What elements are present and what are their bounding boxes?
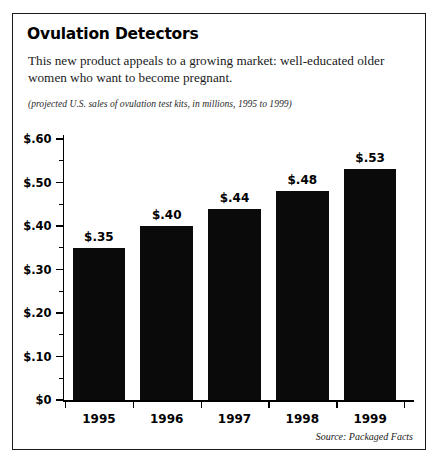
y-axis-label: $0 (13, 393, 52, 407)
y-axis-minor-tick (59, 378, 63, 379)
y-axis-tick (56, 182, 63, 183)
y-axis-minor-tick (59, 334, 63, 335)
source-attribution: Source: Packaged Facts (316, 431, 413, 442)
x-axis-tick (268, 401, 269, 408)
x-axis-label: 1997 (201, 412, 269, 426)
bar-value-label: $.53 (336, 151, 404, 165)
x-axis-label: 1998 (268, 412, 336, 426)
bar (344, 169, 397, 400)
y-axis-label: $.60 (13, 132, 52, 146)
y-axis-line (63, 135, 65, 402)
y-axis-minor-tick (59, 204, 63, 205)
x-axis-line (63, 400, 415, 402)
bar (208, 209, 261, 400)
y-axis-label: $.20 (13, 306, 52, 320)
bar (276, 191, 329, 400)
y-axis-tick (56, 138, 63, 139)
y-axis-tick (56, 269, 63, 270)
x-axis-label: 1995 (65, 412, 133, 426)
x-axis-label: 1996 (133, 412, 201, 426)
y-axis-label: $.40 (13, 219, 52, 233)
bar-value-label: $.48 (268, 173, 336, 187)
x-axis-tick (336, 401, 337, 408)
x-axis-tick (65, 401, 66, 408)
y-axis-label: $.30 (13, 263, 52, 277)
bar-value-label: $.40 (133, 208, 201, 222)
y-axis-label: $.10 (13, 350, 52, 364)
bar-chart: $0$.10$.20$.30$.40$.50$.60$.351995$.4019… (13, 14, 427, 451)
y-axis-tick (56, 312, 63, 313)
y-axis-minor-tick (59, 291, 63, 292)
y-axis-label: $.50 (13, 176, 52, 190)
bar (73, 248, 126, 400)
bar-value-label: $.35 (65, 230, 133, 244)
x-axis-label: 1999 (336, 412, 404, 426)
y-axis-tick (56, 356, 63, 357)
x-axis-tick (404, 401, 405, 408)
y-axis-tick (56, 225, 63, 226)
y-axis-tick (56, 399, 63, 400)
y-axis-minor-tick (59, 160, 63, 161)
bar (140, 226, 193, 400)
x-axis-tick (133, 401, 134, 408)
x-axis-tick (201, 401, 202, 408)
bar-value-label: $.44 (201, 191, 269, 205)
chart-card: Ovulation Detectors This new product app… (12, 13, 426, 450)
y-axis-minor-tick (59, 247, 63, 248)
